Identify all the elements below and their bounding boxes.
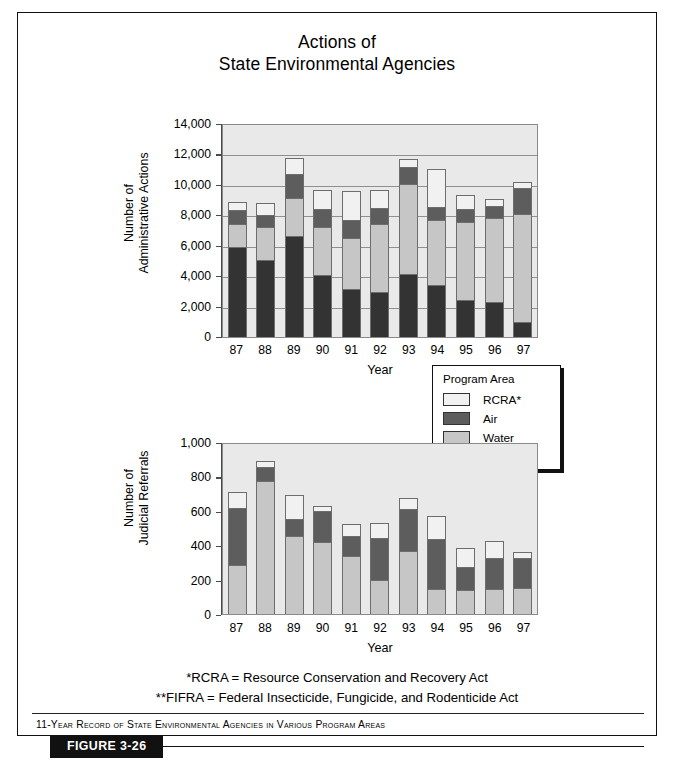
figure-tag-row: FIGURE 3-26 <box>50 735 644 758</box>
bar-segment-water <box>342 556 361 615</box>
bar-segment-water <box>399 551 418 616</box>
xtick-label: 89 <box>284 621 303 635</box>
bar-segment-air <box>513 558 532 590</box>
xaxis-title-judicial: Year <box>222 641 538 655</box>
bar-96 <box>485 541 504 614</box>
figure-tag: FIGURE 3-26 <box>50 735 163 758</box>
bar-89 <box>285 495 304 614</box>
ytick-label: 1,000 <box>158 436 211 450</box>
bar-95 <box>456 548 475 614</box>
bar-87 <box>228 492 247 614</box>
bar-segment-air <box>313 511 332 543</box>
ytick-label: 800 <box>158 470 211 484</box>
xtick-label: 92 <box>370 621 389 635</box>
xtick-label: 88 <box>256 621 275 635</box>
xtick-label: 91 <box>342 621 361 635</box>
xtick-label: 94 <box>428 621 447 635</box>
yaxis-title-judicial: Number of Judicial Referrals <box>122 393 151 603</box>
chart-judicial-referrals: Number of Judicial Referrals 1,000 800 6… <box>18 13 658 673</box>
bar-93 <box>399 498 418 614</box>
caption: 11-Year Record of State Environmental Ag… <box>36 719 385 730</box>
bar-segment-rcra <box>427 516 446 540</box>
footnote-rcra: *RCRA = Resource Conservation and Recove… <box>18 668 656 688</box>
bar-segment-air <box>485 558 504 591</box>
bar-segment-rcra <box>228 492 247 508</box>
bar-segment-air <box>399 509 418 552</box>
bar-segment-water <box>285 536 304 615</box>
ytick-label: 200 <box>158 574 211 588</box>
bar-segment-water <box>456 590 475 615</box>
bar-97 <box>513 552 532 614</box>
ytick-label: 600 <box>158 505 211 519</box>
ytick-label: 400 <box>158 539 211 553</box>
yaxis-title-judicial-line-b: Judicial Referrals <box>137 450 151 545</box>
xtick-label: 87 <box>227 621 246 635</box>
bar-segment-air <box>256 467 275 482</box>
bar-segment-rcra <box>456 548 475 568</box>
bar-segment-air <box>342 536 361 557</box>
bar-segment-air <box>285 519 304 537</box>
plot-area-judicial <box>222 443 538 615</box>
bar-segment-air <box>427 539 446 590</box>
xtick-label: 97 <box>514 621 533 635</box>
bar-segment-air <box>456 567 475 591</box>
bar-segment-rcra <box>485 541 504 558</box>
bar-group-judicial <box>223 444 537 614</box>
ytick-label: 0 <box>158 608 211 622</box>
figure-frame: Actions of State Environmental Agencies … <box>17 12 657 736</box>
bar-90 <box>313 506 332 614</box>
bar-segment-water <box>427 589 446 615</box>
bar-segment-water <box>370 580 389 615</box>
xtick-label: 95 <box>457 621 476 635</box>
figure-tag-rule <box>163 746 644 747</box>
caption-divider <box>32 713 644 714</box>
yaxis-title-judicial-line-a: Number of <box>122 469 136 527</box>
bar-91 <box>342 524 361 614</box>
xtick-label: 90 <box>313 621 332 635</box>
footnotes: *RCRA = Resource Conservation and Recove… <box>18 668 656 708</box>
bar-88 <box>256 461 275 614</box>
bar-segment-rcra <box>285 495 304 520</box>
bar-segment-air <box>228 508 247 566</box>
xtick-label: 96 <box>485 621 504 635</box>
footnote-fifra: **FIFRA = Federal Insecticide, Fungicide… <box>18 688 656 708</box>
bar-segment-water <box>485 589 504 615</box>
bar-segment-water <box>313 542 332 615</box>
bar-segment-air <box>370 538 389 581</box>
xaxis-ticklabels-judicial: 8788899091929394959697 <box>222 621 538 635</box>
bar-segment-water <box>228 565 247 615</box>
bar-segment-water <box>513 588 532 615</box>
bar-92 <box>370 523 389 614</box>
xtick-label: 93 <box>399 621 418 635</box>
bar-94 <box>427 516 446 614</box>
bar-segment-water <box>256 481 275 615</box>
bar-segment-rcra <box>370 523 389 538</box>
